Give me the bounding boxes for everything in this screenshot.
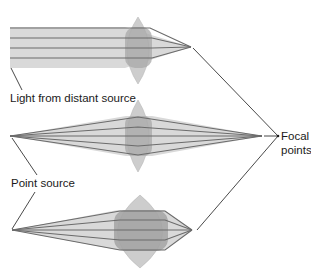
focal-label-line2: points [281,144,311,157]
focal-junction-dot [277,135,280,138]
lens-diagram [0,0,311,271]
focal-leader-top [193,48,278,136]
distant-source-label: Light from distant source [10,92,136,105]
point-source-label: Point source [11,177,75,190]
focal-leader-bottom [197,136,278,230]
point-source-leader-top [12,138,37,175]
panel-point-source-thick [12,192,192,268]
distant-source-leader [11,68,22,90]
point-source-leader-bottom [12,192,35,229]
panel-distant-source [10,17,191,90]
focal-label-line1: Focal [281,130,309,143]
panel-point-source-thin [10,100,278,175]
